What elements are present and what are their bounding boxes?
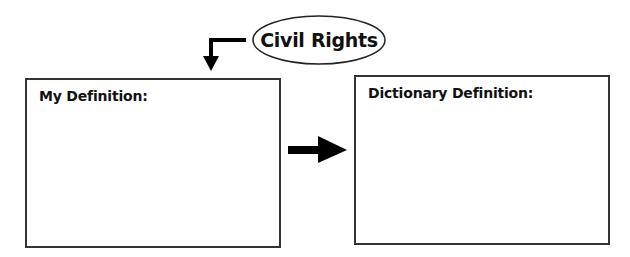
my-definition-box[interactable]: My Definition: [25,78,281,248]
dictionary-definition-label: Dictionary Definition: [368,85,533,101]
topic-label: Civil Rights [252,16,386,64]
dictionary-definition-box[interactable]: Dictionary Definition: [354,75,610,245]
right-arrow-icon [288,136,347,163]
my-definition-label: My Definition: [39,88,148,104]
elbow-arrow-down-icon [203,40,246,71]
